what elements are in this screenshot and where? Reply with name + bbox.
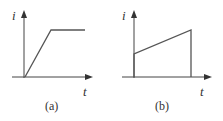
caption-a: (a) [45, 99, 58, 113]
waveform-a [25, 30, 85, 77]
diagram-canvas: i t (a) i t (b) [0, 0, 223, 121]
x-label-b: t [200, 84, 204, 99]
waveform-b [134, 30, 191, 77]
caption-b: (b) [155, 99, 169, 113]
x-axis-arrow-icon-b [204, 74, 212, 80]
y-label-a: i [12, 8, 16, 23]
y-label-b: i [122, 8, 126, 23]
panel-b: i t (b) [122, 8, 212, 113]
x-label-a: t [83, 84, 87, 99]
x-axis-arrow-icon-a [85, 74, 93, 80]
panel-a: i t (a) [12, 8, 93, 113]
y-axis-arrow-icon-a [21, 10, 27, 18]
y-axis-arrow-icon-b [131, 10, 137, 18]
